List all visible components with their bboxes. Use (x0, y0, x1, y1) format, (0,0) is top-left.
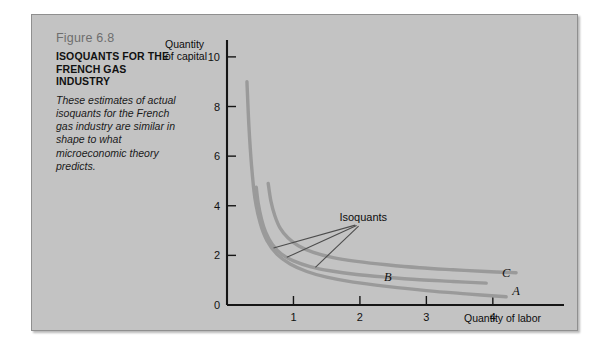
x-tick-label: 2 (357, 311, 363, 323)
y-tick-label: 10 (208, 51, 220, 63)
y-tick-label: 8 (214, 101, 220, 113)
y-tick-label: 4 (214, 200, 220, 212)
isoquant-curve-A (247, 82, 506, 297)
figure-number: Figure 6.8 (56, 31, 176, 45)
x-tick-label: 4 (490, 311, 496, 323)
isoquants-leader-line (274, 225, 356, 248)
x-axis-title: Quantity of labor (464, 312, 542, 324)
isoquants-annotation: Isoquants (339, 211, 387, 223)
curve-label-C: C (502, 266, 511, 280)
isoquant-curve-C (268, 183, 516, 272)
curve-label-A: A (511, 284, 520, 298)
y-tick-label: 2 (214, 249, 220, 261)
figure-description: These estimates of actual isoquants for … (56, 94, 176, 173)
x-tick-label: 3 (423, 311, 429, 323)
curve-label-B: B (384, 270, 392, 284)
figure-panel: Figure 6.8 ISOQUANTS FOR THE FRENCH GAS … (31, 14, 578, 331)
figure-caption: Figure 6.8 ISOQUANTS FOR THE FRENCH GAS … (56, 31, 176, 173)
y-tick-label: 6 (214, 150, 220, 162)
x-tick-label: 1 (290, 311, 296, 323)
isoquants-leader-line (315, 226, 358, 267)
figure-title: ISOQUANTS FOR THE FRENCH GAS INDUSTRY (56, 50, 176, 88)
y-tick-label: 0 (214, 299, 220, 311)
isoquant-curve-B (256, 187, 486, 283)
isoquants-leader-line (287, 226, 357, 258)
